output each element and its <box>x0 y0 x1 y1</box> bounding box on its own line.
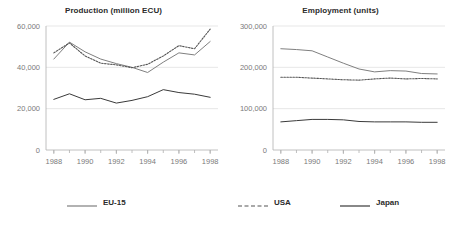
x-tick-label: 1998 <box>429 157 446 166</box>
x-tick-label: 1992 <box>108 157 125 166</box>
series-line-usa <box>281 77 437 80</box>
x-tick-label: 1990 <box>77 157 94 166</box>
chart-panel-production: Production (million ECU) 020,00040,00060… <box>0 0 227 188</box>
y-tick-label: 0 <box>36 146 40 155</box>
y-tick-label: 40,000 <box>17 63 40 72</box>
x-tick-label: 1988 <box>45 157 62 166</box>
y-tick-label: 20,000 <box>17 104 40 113</box>
plot-area-employment: 0100,000200,000300,000198819901992199419… <box>227 20 454 180</box>
legend-label-japan: Japan <box>376 198 399 207</box>
y-tick-label: 300,000 <box>240 22 267 31</box>
x-tick-label: 1998 <box>202 157 219 166</box>
x-tick-label: 1994 <box>139 157 156 166</box>
chart-title-production: Production (million ECU) <box>0 6 227 15</box>
chart-figure: Production (million ECU) 020,00040,00060… <box>0 0 454 228</box>
x-tick-label: 1992 <box>335 157 352 166</box>
y-tick-label: 200,000 <box>240 63 267 72</box>
series-line-japan <box>281 119 437 122</box>
chart-panel-employment: Employment (units) 0100,000200,000300,00… <box>227 0 454 188</box>
x-tick-label: 1996 <box>398 157 415 166</box>
chart-title-employment: Employment (units) <box>227 6 454 15</box>
legend-item-usa: USA <box>238 198 291 207</box>
plot-area-production: 020,00040,00060,000198819901992199419961… <box>0 20 227 180</box>
chart-legend: EU-15 USA Japan <box>0 192 454 228</box>
y-tick-label: 0 <box>263 146 267 155</box>
x-tick-label: 1996 <box>171 157 188 166</box>
legend-label-eu-15: EU-15 <box>103 198 126 207</box>
legend-item-japan: Japan <box>340 198 399 207</box>
x-tick-label: 1990 <box>304 157 321 166</box>
y-tick-label: 60,000 <box>17 22 40 31</box>
x-tick-label: 1988 <box>272 157 289 166</box>
legend-label-usa: USA <box>274 198 291 207</box>
y-tick-label: 100,000 <box>240 104 267 113</box>
series-line-japan <box>54 90 210 103</box>
x-tick-label: 1994 <box>366 157 383 166</box>
series-line-usa <box>54 29 210 68</box>
legend-item-eu-15: EU-15 <box>67 198 126 207</box>
series-line-eu-15 <box>281 49 437 74</box>
